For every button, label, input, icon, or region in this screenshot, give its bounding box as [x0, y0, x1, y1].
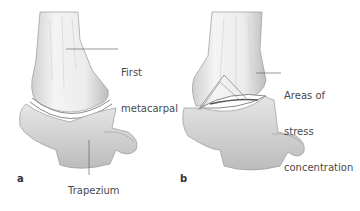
label-trapezium: Trapezium	[68, 185, 119, 197]
label-line: stress	[284, 126, 353, 138]
label-first-metacarpal: First metacarpal	[121, 43, 178, 139]
label-line: concentration	[284, 162, 353, 174]
label-line: Areas of	[284, 90, 353, 102]
label-areas-of-stress-concentration: Areas of stress concentration	[284, 66, 353, 198]
label-line: First	[121, 67, 178, 79]
panel-letter-b: b	[180, 173, 187, 184]
label-line: metacarpal	[121, 103, 178, 115]
panel-letter-a: a	[17, 173, 24, 184]
panel-b: Areas of stress concentration b	[180, 0, 360, 211]
panel-a: First metacarpal Trapezium a	[0, 0, 180, 211]
